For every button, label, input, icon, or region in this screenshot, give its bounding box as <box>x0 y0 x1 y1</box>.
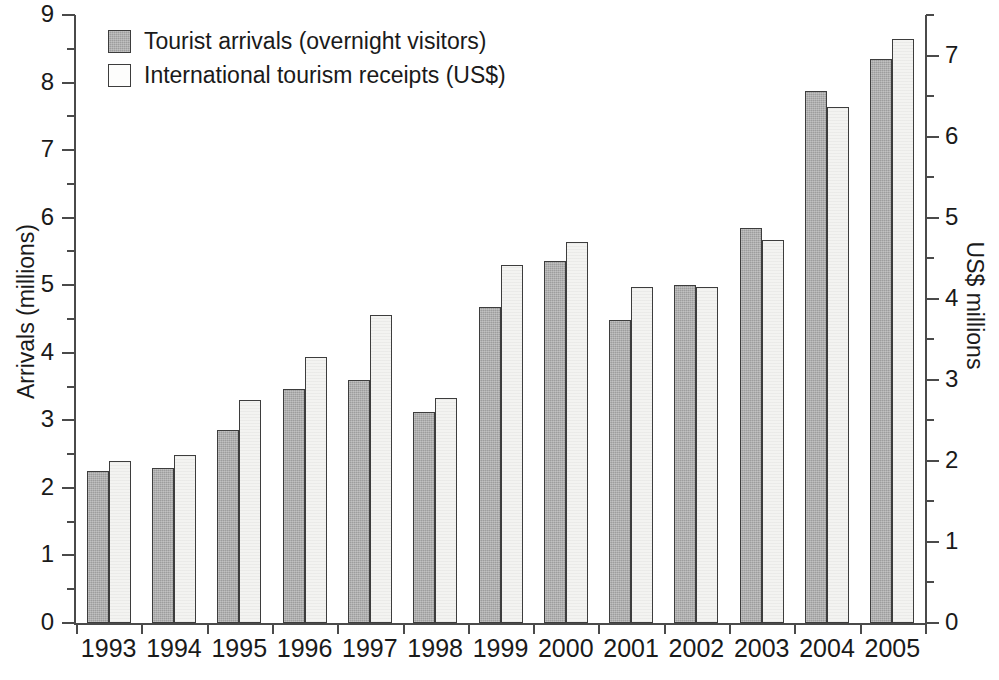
y-axis-right-tick-label: 0 <box>945 610 958 634</box>
x-axis-tick <box>598 625 600 634</box>
y-axis-right-title: US$ millions <box>961 206 988 406</box>
legend-label-tourist-arrivals: Tourist arrivals (overnight visitors) <box>144 30 487 53</box>
bar-2005-series-1 <box>870 59 892 623</box>
y-axis-right-tick <box>926 541 939 543</box>
y-axis-left-tick <box>62 622 75 624</box>
bar-2001-series-2 <box>631 287 653 623</box>
bar-1997-series-2 <box>370 315 392 623</box>
y-axis-left-minor-tick <box>67 318 75 320</box>
y-axis-left-tick-label: 5 <box>41 272 54 296</box>
x-axis-tick <box>729 625 731 634</box>
y-axis-right-tick-label: 2 <box>945 448 958 472</box>
x-axis-label-1993: 1993 <box>76 636 141 661</box>
x-axis-label-2005: 2005 <box>860 636 925 661</box>
y-axis-left-tick-label: 4 <box>41 340 54 364</box>
bar-group-2003 <box>740 15 784 623</box>
bar-group-1995 <box>217 15 261 623</box>
x-axis-label-1994: 1994 <box>141 636 206 661</box>
y-axis-right-minor-tick <box>926 95 934 97</box>
y-axis-left-tick <box>62 82 75 84</box>
x-axis-label-2004: 2004 <box>794 636 859 661</box>
bar-2000-series-2 <box>566 242 588 623</box>
bar-group-1997 <box>348 15 392 623</box>
bar-group-2000 <box>544 15 588 623</box>
bar-group-1994 <box>152 15 196 623</box>
y-axis-left-tick <box>62 419 75 421</box>
x-axis-line <box>74 623 927 625</box>
bar-group-2001 <box>609 15 653 623</box>
bar-1999-series-2 <box>501 265 523 623</box>
x-axis-tick <box>925 625 927 634</box>
y-axis-left-tick <box>62 554 75 556</box>
y-axis-right-tick-label: 6 <box>945 124 958 148</box>
bar-1994-series-1 <box>152 468 174 623</box>
bar-2002-series-1 <box>674 285 696 623</box>
y-axis-right-tick <box>926 622 939 624</box>
bar-1995-series-1 <box>217 430 239 623</box>
y-axis-left-minor-tick <box>67 250 75 252</box>
y-axis-left-tick-label: 3 <box>41 407 54 431</box>
bar-1993-series-1 <box>87 471 109 623</box>
y-axis-left-minor-tick <box>67 183 75 185</box>
y-axis-left-minor-tick <box>67 386 75 388</box>
legend-label-tourism-receipts: International tourism receipts (US$) <box>144 64 506 87</box>
y-axis-right-minor-tick <box>926 338 934 340</box>
bar-2004-series-2 <box>827 107 849 623</box>
bar-2002-series-2 <box>696 287 718 623</box>
legend-item-tourist-arrivals: Tourist arrivals (overnight visitors) <box>108 24 506 58</box>
bar-1998-series-2 <box>435 398 457 623</box>
legend-swatch-light-icon <box>108 64 131 87</box>
x-axis-label-1997: 1997 <box>337 636 402 661</box>
y-axis-left-tick <box>62 487 75 489</box>
bar-1994-series-2 <box>174 455 196 623</box>
bar-2001-series-1 <box>609 320 631 623</box>
y-axis-left-title: Arrivals (millions) <box>13 202 40 422</box>
plot-area <box>76 15 925 623</box>
y-axis-left-tick <box>62 217 75 219</box>
x-axis-label-2000: 2000 <box>533 636 598 661</box>
bar-2005-series-2 <box>892 39 914 623</box>
bar-1998-series-1 <box>413 412 435 623</box>
bar-2000-series-1 <box>544 261 566 623</box>
bar-group-1996 <box>283 15 327 623</box>
y-axis-left-tick-label: 2 <box>41 475 54 499</box>
x-axis-tick <box>403 625 405 634</box>
y-axis-right-minor-tick <box>926 257 934 259</box>
legend-item-tourism-receipts: International tourism receipts (US$) <box>108 58 506 92</box>
y-axis-right-tick-label: 4 <box>945 286 958 310</box>
bar-1999-series-1 <box>479 307 501 623</box>
legend-swatch-dark-icon <box>108 30 131 53</box>
y-axis-right-tick-label: 1 <box>945 529 958 553</box>
y-axis-right-tick <box>926 55 939 57</box>
bar-group-1998 <box>413 15 457 623</box>
y-axis-left-tick-label: 6 <box>41 205 54 229</box>
y-axis-left-minor-tick <box>67 115 75 117</box>
y-axis-left-tick-label: 0 <box>41 610 54 634</box>
y-axis-left-tick <box>62 149 75 151</box>
x-axis-tick <box>337 625 339 634</box>
bar-group-1993 <box>87 15 131 623</box>
bar-1996-series-1 <box>283 389 305 623</box>
tourism-bar-chart: Arrivals (millions) US$ millions 0123456… <box>0 0 999 680</box>
bar-group-2004 <box>805 15 849 623</box>
y-axis-right-tick <box>926 460 939 462</box>
x-axis-tick <box>533 625 535 634</box>
y-axis-right-minor-tick <box>926 14 934 16</box>
y-axis-right-minor-tick <box>926 419 934 421</box>
x-axis-tick <box>76 625 78 634</box>
bar-2004-series-1 <box>805 91 827 623</box>
bar-1995-series-2 <box>239 400 261 623</box>
bar-1993-series-2 <box>109 461 131 623</box>
y-axis-right-tick <box>926 298 939 300</box>
y-axis-right-minor-tick <box>926 500 934 502</box>
x-axis-tick <box>468 625 470 634</box>
y-axis-left-minor-tick <box>67 48 75 50</box>
y-axis-left-tick <box>62 352 75 354</box>
bar-2003-series-1 <box>740 228 762 623</box>
y-axis-left-tick <box>62 14 75 16</box>
bar-group-1999 <box>479 15 523 623</box>
y-axis-right-tick-label: 7 <box>945 43 958 67</box>
x-axis-tick <box>860 625 862 634</box>
x-axis-label-1998: 1998 <box>403 636 468 661</box>
y-axis-left-tick-label: 9 <box>41 2 54 26</box>
